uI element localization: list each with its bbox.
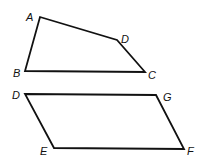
parallelogram-degf — [25, 94, 184, 149]
vertex-label-d: D — [121, 33, 129, 45]
vertex-label-g: G — [163, 91, 172, 103]
vertex-label-c: C — [148, 69, 156, 81]
vertex-label-e: E — [40, 145, 48, 157]
vertex-label-a: A — [25, 11, 33, 23]
geometry-diagram: A D C B D G F E — [0, 0, 207, 166]
vertex-label-d2: D — [12, 89, 20, 101]
vertex-label-f: F — [187, 145, 195, 157]
vertex-label-b: B — [13, 67, 20, 79]
